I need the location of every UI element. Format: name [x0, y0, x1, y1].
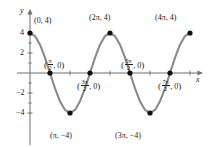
point-label-3pi-minus4: (3π, −4)	[115, 132, 141, 140]
paren-close: )	[174, 13, 177, 22]
fraction-denominator: 2	[162, 85, 170, 92]
point-label-pi-over-2-0-y: , 0	[53, 61, 61, 70]
fraction-7pi-over-2: 7π2	[162, 79, 170, 93]
fraction-5pi-over-2: 5π2	[125, 58, 133, 72]
paren-close: )	[69, 131, 72, 140]
coordinate-plane	[0, 0, 212, 147]
point-label-3pi-over-2-0: (3π2, 0)	[77, 79, 100, 93]
y-tick-label-minus-2: −2	[16, 89, 25, 97]
fraction-denominator: 2	[81, 85, 89, 92]
y-tick-label-2: 2	[20, 49, 24, 57]
axes-group	[17, 9, 203, 145]
data-point-p2	[67, 110, 72, 115]
point-label-0-4-close: )	[49, 16, 52, 25]
data-point-p8	[187, 30, 192, 35]
point-label-2pi-4-y: , 4	[100, 13, 108, 22]
point-label-2pi-4: (2π, 4)	[89, 14, 110, 22]
data-point-p6	[147, 110, 152, 115]
point-label-3pi-minus4-y: , −4	[126, 131, 139, 140]
data-point-p3	[87, 70, 92, 75]
point-label-3pi-minus4-x: 3π	[118, 131, 126, 140]
point-label-pi-over-2-0: (π2, 0)	[44, 58, 64, 72]
point-label-4pi-4: (4π, 4)	[155, 14, 176, 22]
point-label-0-4-body: 0, 4	[37, 16, 49, 25]
y-axis-arrowhead	[27, 9, 32, 15]
paren-close: )	[108, 13, 111, 22]
paren-close: )	[61, 60, 64, 70]
graph-figure: y x 4 2 −2 −4 (0, 4) (2π, 4) (4π, 4) (π,…	[0, 0, 212, 147]
point-label-pi-minus4: (π, −4)	[50, 132, 72, 140]
fraction-3pi-over-2: 3π2	[81, 79, 89, 93]
fraction-denominator: 2	[125, 64, 133, 71]
point-label-7pi-over-2-0: (7π2, 0)	[158, 79, 181, 93]
paren-close: )	[141, 60, 144, 70]
data-point-p0	[27, 30, 32, 35]
paren-close: )	[178, 81, 181, 91]
fraction-denominator: 2	[48, 64, 53, 71]
point-label-pi-minus4-y: , −4	[57, 131, 70, 140]
point-label-5pi-over-2-0: (5π2, 0)	[121, 58, 144, 72]
data-point-p7	[167, 70, 172, 75]
paren-close: )	[97, 81, 100, 91]
x-axis-label: x	[196, 76, 200, 84]
paren-close: )	[138, 131, 141, 140]
point-label-4pi-4-y: , 4	[166, 13, 174, 22]
point-label-4pi-4-x: 4π	[158, 13, 166, 22]
y-tick-label-minus-4: −4	[16, 109, 25, 117]
y-axis-label: y	[20, 7, 24, 15]
data-point-p4	[107, 30, 112, 35]
fraction-pi-over-2: π2	[48, 58, 53, 72]
y-tick-label-4: 4	[20, 29, 24, 37]
point-label-0-4: (0, 4)	[34, 17, 51, 25]
point-label-2pi-4-x: 2π	[92, 13, 100, 22]
